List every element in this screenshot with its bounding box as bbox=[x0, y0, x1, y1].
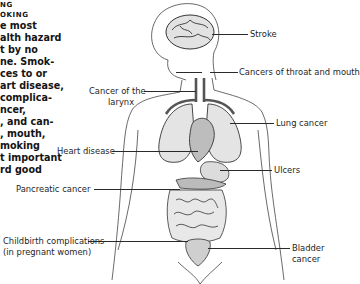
airway-and-vessels bbox=[166, 78, 234, 114]
label-lung: Lung cancer bbox=[276, 118, 327, 128]
label-ulcers: Ulcers bbox=[274, 165, 300, 175]
leader-lung bbox=[230, 123, 274, 124]
leader-larynx bbox=[144, 91, 196, 92]
leader-pancreatic bbox=[94, 189, 180, 190]
label-bladder-2: cancer bbox=[292, 254, 320, 264]
label-bladder-1: Bladder bbox=[292, 243, 324, 253]
label-childbirth-1: Childbirth complications bbox=[3, 236, 104, 246]
leader-throat-mouth-2 bbox=[176, 72, 202, 73]
leader-heart bbox=[112, 151, 198, 152]
leader-bladder bbox=[208, 248, 290, 249]
heart-icon bbox=[189, 118, 214, 162]
label-larynx-2: larynx bbox=[108, 97, 134, 107]
leader-throat-mouth bbox=[210, 72, 238, 73]
label-pancreatic: Pancreatic cancer bbox=[16, 184, 90, 194]
label-larynx-1: Cancer of the bbox=[89, 86, 146, 96]
bladder-icon bbox=[186, 239, 211, 266]
intestines-icon bbox=[167, 190, 226, 243]
label-throat-mouth: Cancers of throat and mouth bbox=[239, 67, 360, 77]
leader-ulcers bbox=[220, 170, 272, 171]
label-stroke: Stroke bbox=[250, 29, 277, 39]
label-heart: Heart disease bbox=[57, 146, 115, 156]
label-childbirth-2: (in pregnant women) bbox=[3, 247, 91, 257]
leader-stroke bbox=[212, 34, 248, 35]
brain-icon bbox=[166, 15, 214, 49]
